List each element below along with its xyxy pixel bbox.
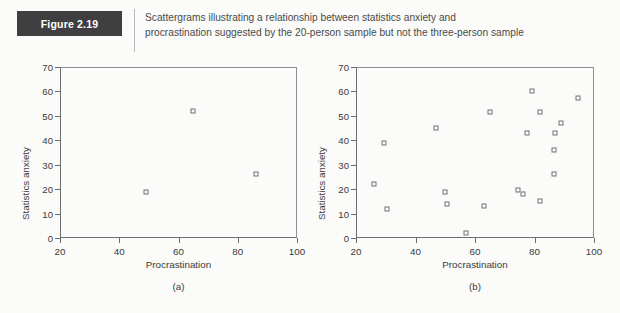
- data-point: [525, 130, 530, 135]
- chart-b-y-tick: [351, 165, 356, 166]
- chart-a-x-tick: [119, 238, 120, 243]
- scatterplot-panel-b: Statistics anxiety Procrastination (b) 0…: [310, 60, 615, 313]
- figure-caption-line-2: procrastination suggested by the 20-pers…: [145, 26, 607, 41]
- chart-a-y-tick-label: 30: [22, 159, 53, 170]
- chart-a-y-tick: [55, 67, 60, 68]
- data-point: [143, 189, 148, 194]
- data-point: [382, 140, 387, 145]
- chart-b-x-tick-label: 60: [470, 246, 481, 257]
- chart-b-x-tick-label: 20: [351, 246, 362, 257]
- chart-b-y-tick: [351, 189, 356, 190]
- chart-b-panel-label: (b): [356, 281, 594, 292]
- chart-a-y-tick-label: 40: [22, 135, 53, 146]
- data-point: [487, 110, 492, 115]
- chart-a-y-tick-label: 50: [22, 110, 53, 121]
- chart-b-x-tick-label: 40: [410, 246, 421, 257]
- chart-a-x-tick-label: 40: [114, 246, 125, 257]
- chart-a-x-axis-label: Procrastination: [60, 259, 297, 270]
- data-point: [551, 148, 556, 153]
- data-point: [464, 231, 469, 236]
- chart-b-x-tick-label: 80: [529, 246, 540, 257]
- chart-a-x-tick: [179, 238, 180, 243]
- data-point: [434, 126, 439, 131]
- chart-a-y-tick-label: 0: [22, 233, 53, 244]
- chart-b-y-tick-label: 10: [318, 208, 349, 219]
- scatterplot-panel-a: Statistics anxiety Procrastination (a) 0…: [10, 60, 310, 313]
- chart-a-y-tick: [55, 91, 60, 92]
- chart-a-y-tick: [55, 165, 60, 166]
- data-point: [385, 206, 390, 211]
- data-point: [551, 172, 556, 177]
- chart-b-y-tick: [351, 116, 356, 117]
- chart-a-x-tick-label: 80: [232, 246, 243, 257]
- chart-b-x-axis-label: Procrastination: [356, 259, 594, 270]
- data-point: [253, 172, 258, 177]
- chart-b-x-tick: [594, 238, 595, 243]
- figure-header: Figure 2.19 Scattergrams illustrating a …: [17, 11, 605, 49]
- chart-b-x-tick-label: 100: [586, 246, 602, 257]
- data-point: [443, 189, 448, 194]
- chart-b-plot-area: [356, 67, 594, 238]
- data-point: [371, 182, 376, 187]
- chart-a-y-tick: [55, 189, 60, 190]
- chart-b-y-tick-label: 20: [318, 184, 349, 195]
- chart-b-y-tick-label: 70: [318, 62, 349, 73]
- figure-caption: Scattergrams illustrating a relationship…: [145, 11, 607, 40]
- chart-a-y-tick-label: 70: [22, 62, 53, 73]
- chart-a-panel-label: (a): [60, 281, 297, 292]
- chart-a-x-tick-label: 100: [289, 246, 305, 257]
- chart-a-y-tick-label: 10: [22, 208, 53, 219]
- chart-b-y-tick-label: 0: [318, 233, 349, 244]
- figure-caption-line-1: Scattergrams illustrating a relationship…: [145, 11, 607, 26]
- data-point: [553, 130, 558, 135]
- chart-a-x-tick: [60, 238, 61, 243]
- data-point: [559, 121, 564, 126]
- chart-b-y-tick: [351, 91, 356, 92]
- chart-b-y-tick: [351, 140, 356, 141]
- header-divider: [134, 9, 135, 52]
- data-point: [575, 95, 580, 100]
- chart-a-x-tick: [238, 238, 239, 243]
- figure-number-label: Figure 2.19: [41, 18, 99, 30]
- chart-b-x-tick: [356, 238, 357, 243]
- data-point: [191, 108, 196, 113]
- data-point: [481, 204, 486, 209]
- chart-b-x-tick: [416, 238, 417, 243]
- data-point: [538, 110, 543, 115]
- data-point: [529, 89, 534, 94]
- chart-b-y-tick: [351, 214, 356, 215]
- chart-a-y-tick: [55, 214, 60, 215]
- chart-a-x-tick-label: 20: [55, 246, 66, 257]
- data-point: [538, 199, 543, 204]
- chart-b-y-tick-label: 60: [318, 86, 349, 97]
- data-point: [520, 192, 525, 197]
- chart-b-y-tick-label: 30: [318, 159, 349, 170]
- chart-b-y-tick: [351, 67, 356, 68]
- chart-a-plot-area: [60, 67, 297, 238]
- chart-a-y-tick: [55, 116, 60, 117]
- chart-a-y-tick-label: 60: [22, 86, 53, 97]
- chart-a-y-tick-label: 20: [22, 184, 53, 195]
- chart-b-x-tick: [535, 238, 536, 243]
- chart-b-y-tick-label: 40: [318, 135, 349, 146]
- chart-a-x-tick: [297, 238, 298, 243]
- figure-number-badge: Figure 2.19: [17, 11, 122, 36]
- data-point: [444, 201, 449, 206]
- chart-a-x-tick-label: 60: [173, 246, 184, 257]
- chart-b-y-tick-label: 50: [318, 110, 349, 121]
- chart-a-y-tick: [55, 140, 60, 141]
- chart-b-x-tick: [475, 238, 476, 243]
